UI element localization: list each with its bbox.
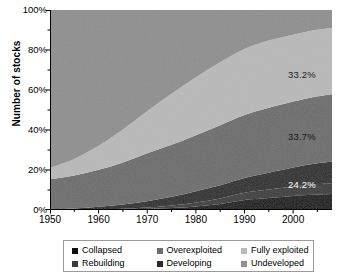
legend-row: Collapsed Overexploited Fully exploited bbox=[64, 244, 313, 257]
x-tick-label: 1980 bbox=[176, 215, 216, 225]
legend-swatch-developing bbox=[157, 261, 163, 267]
x-tick-label: 1960 bbox=[79, 215, 119, 225]
x-tick-label: 2000 bbox=[273, 215, 313, 225]
legend-label-rebuilding: Rebuilding bbox=[82, 259, 125, 268]
legend-label-fully-exploited: Fully exploited bbox=[251, 246, 309, 255]
legend-swatch-undeveloped bbox=[241, 261, 247, 267]
legend-swatch-rebuilding bbox=[72, 261, 78, 267]
data-label-24-2: 24.2% bbox=[288, 179, 316, 190]
legend-swatch-overexploited bbox=[157, 248, 163, 254]
legend-item-rebuilding[interactable]: Rebuilding bbox=[64, 259, 157, 268]
x-tick-label: 1950 bbox=[30, 215, 70, 225]
legend-item-undeveloped[interactable]: Undeveloped bbox=[241, 259, 313, 268]
data-label-33-2: 33.2% bbox=[288, 69, 316, 80]
x-tick-label: 1970 bbox=[127, 215, 167, 225]
x-tick-label: 1990 bbox=[224, 215, 264, 225]
chart-legend: Collapsed Overexploited Fully exploited … bbox=[63, 240, 314, 272]
legend-item-developing[interactable]: Developing bbox=[157, 259, 242, 268]
legend-swatch-fully-exploited bbox=[241, 248, 247, 254]
x-axis-tick-labels: 195019601970198019902000 bbox=[0, 0, 339, 230]
legend-label-overexploited: Overexploited bbox=[167, 246, 223, 255]
legend-label-collapsed: Collapsed bbox=[82, 246, 122, 255]
legend-label-undeveloped: Undeveloped bbox=[251, 259, 304, 268]
legend-label-developing: Developing bbox=[167, 259, 212, 268]
data-label-33-7: 33.7% bbox=[288, 131, 316, 142]
chart-figure: Number of stocks 0%20%40%60%80%100% 1950… bbox=[0, 0, 339, 276]
legend-item-fully-exploited[interactable]: Fully exploited bbox=[241, 246, 313, 255]
legend-swatch-collapsed bbox=[72, 248, 78, 254]
legend-row: Rebuilding Developing Undeveloped bbox=[64, 257, 313, 270]
legend-item-overexploited[interactable]: Overexploited bbox=[157, 246, 242, 255]
legend-item-collapsed[interactable]: Collapsed bbox=[64, 246, 157, 255]
